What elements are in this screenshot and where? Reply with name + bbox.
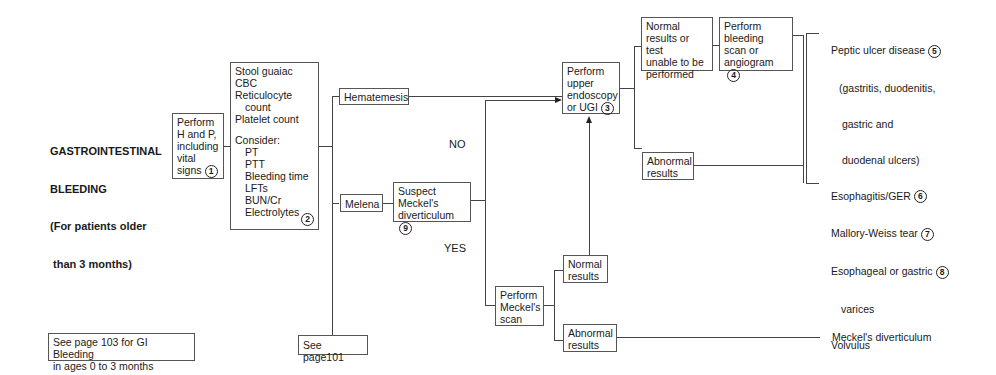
node-abnormal-results-endoscopy: Abnormal results (642, 152, 694, 180)
reference-number-badge: 6 (914, 190, 927, 203)
node-text: BUN/Cr (235, 194, 314, 206)
branch-label-no: NO (449, 138, 466, 150)
reference-number-badge: 2 (301, 213, 314, 226)
diagnosis-text: Esophagitis/GER (831, 190, 911, 202)
see-page-103-reference[interactable]: See page 103 for GI Bleeding in ages 0 t… (48, 333, 195, 361)
diagnosis-text: (gastritis, duodenitis, (831, 82, 949, 94)
diagnosis-text: varices (831, 303, 949, 315)
reference-number-badge: 4 (727, 69, 740, 82)
connector (694, 165, 803, 166)
connector (554, 340, 563, 341)
node-text: upper (567, 77, 615, 89)
node-text: PTT (235, 158, 314, 170)
node-normal-results-meckel: Normal results (563, 255, 608, 283)
node-text: Meckel's (398, 197, 466, 209)
node-text: Perform (177, 116, 219, 128)
node-text: or UGI (567, 101, 598, 113)
title-line: BLEEDING (50, 183, 162, 196)
diagnosis-item: Mallory-Weiss tear7 (831, 227, 949, 241)
node-text: Hematemesis (344, 91, 408, 103)
node-text: performed (646, 68, 708, 80)
diagnosis-text: Mallory-Weiss tear (831, 227, 918, 239)
node-lab-tests: Stool guaiac CBC Reticulocyte count Plat… (230, 62, 319, 230)
connector (544, 305, 554, 306)
title-line: than 3 months) (50, 258, 162, 271)
connector (319, 146, 332, 147)
connector (383, 203, 393, 204)
connector (806, 33, 819, 34)
node-text: in ages 0 to 3 months (53, 360, 190, 372)
node-text: results (568, 270, 603, 282)
node-text: scan or (724, 44, 788, 56)
node-text: Platelet count (235, 113, 314, 125)
diagnosis-item: Esophagitis/GER6 (831, 190, 949, 204)
reference-number-badge: 3 (601, 102, 614, 115)
node-normal-or-unable: Normal results or test unable to be perf… (641, 17, 713, 71)
connector (803, 35, 804, 183)
connector (554, 270, 555, 340)
reference-number-badge: 8 (936, 266, 949, 279)
node-text: signs (177, 164, 202, 176)
node-text: endoscopy (567, 89, 615, 101)
flowchart-title: GASTROINTESTINAL BLEEDING (For patients … (50, 120, 162, 283)
connector (485, 100, 486, 305)
node-text: Perform (500, 289, 539, 301)
diagnosis-item: Peptic ulcer disease5 (831, 44, 949, 58)
connector (332, 96, 333, 289)
node-text: vital (177, 152, 219, 164)
node-text: Perform (724, 20, 788, 32)
connector (485, 305, 495, 306)
connector (332, 203, 339, 204)
see-page-101-reference[interactable]: See page101 (298, 335, 368, 355)
node-suspect-meckels: Suspect Meckel's diverticulum9 (393, 182, 471, 222)
node-meckels-scan: Perform Meckel's scan (495, 286, 544, 326)
branch-label-yes: YES (444, 242, 466, 254)
connector (485, 100, 555, 101)
connector (803, 35, 804, 36)
node-text: Suspect (398, 185, 466, 197)
node-text: Melena (345, 198, 379, 210)
node-text: diverticulum (398, 209, 454, 221)
node-text: H and P, (177, 128, 219, 140)
node-text: Normal (568, 258, 603, 270)
node-text: bleeding (724, 32, 788, 44)
connector (332, 96, 339, 97)
node-abnormal-results-meckel: Abnormal results (563, 324, 617, 352)
node-text: PT (235, 146, 314, 158)
node-text: Consider: (235, 134, 314, 146)
node-upper-endoscopy: Perform upper endoscopy or UGI3 (562, 62, 620, 114)
connector (634, 148, 642, 149)
node-hematemesis: Hematemesis (339, 88, 409, 105)
connector (617, 337, 820, 338)
connector (332, 289, 333, 335)
connector (620, 88, 634, 89)
node-bleeding-scan: Perform bleeding scan or angiogram4 (719, 17, 793, 71)
reference-number-badge: 9 (399, 222, 412, 235)
diagnosis-text: Peptic ulcer disease (831, 44, 925, 56)
node-text: results (647, 167, 689, 179)
node-text: results (568, 339, 612, 351)
node-text: unable to be (646, 56, 708, 68)
node-text: See page101 (303, 339, 344, 363)
diagnosis-item: Esophageal or gastric8 (831, 265, 949, 279)
node-text: Normal (646, 20, 708, 32)
reference-number-badge: 7 (921, 228, 934, 241)
connector (634, 46, 641, 47)
connector (634, 46, 635, 148)
title-line: GASTROINTESTINAL (50, 145, 162, 158)
node-text: count (235, 101, 314, 113)
node-text: results or test (646, 32, 708, 56)
arrow-up-icon (586, 116, 592, 123)
node-text: Abnormal (647, 155, 689, 167)
node-text: scan (500, 313, 539, 325)
node-text: Perform (567, 65, 615, 77)
node-text: Meckel's (500, 301, 539, 313)
title-line: (For patients older (50, 220, 162, 233)
reference-number-badge: 1 (205, 165, 218, 178)
diagnosis-list: Peptic ulcer disease5 (gastritis, duoden… (831, 20, 949, 375)
connector (589, 123, 590, 255)
connector (806, 183, 819, 184)
diagnosis-text: gastric and (831, 118, 949, 130)
node-history-physical: Perform H and P, including vital signs1 (172, 113, 224, 179)
diagnosis-text: duodenal ulcers) (831, 154, 949, 166)
